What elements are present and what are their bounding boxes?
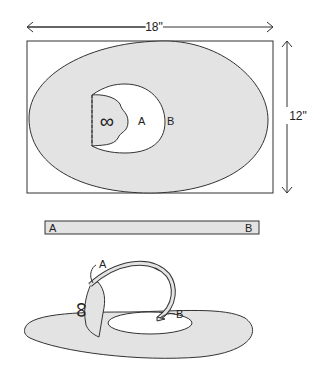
strap-label-b: B (245, 222, 252, 234)
assembled-label-b: B (176, 308, 183, 320)
inner-label-b: B (167, 115, 174, 127)
height-dimension: 12" (282, 41, 307, 193)
strap-piece (45, 221, 259, 234)
assembled-visor: ∞ (25, 263, 253, 358)
inner-label-a: A (138, 115, 146, 127)
strap-label-a: A (49, 222, 57, 234)
assembled-label-a: A (99, 258, 107, 270)
height-label: 12" (289, 109, 307, 123)
width-label: 18" (145, 20, 163, 34)
width-dimension: 18" (27, 20, 273, 34)
infinity-symbol: ∞ (100, 110, 114, 132)
crown-infinity: ∞ (70, 302, 95, 318)
pattern-diagram: 18" ∞ A B 12" A B ∞ A B (0, 0, 310, 373)
